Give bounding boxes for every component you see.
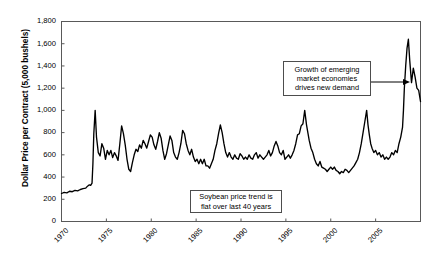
- annotation-emerging-demand: Growth of emerging market economies driv…: [283, 61, 371, 96]
- annotation-demand-line-1: Growth of emerging: [287, 65, 367, 74]
- annotation-flat-line-2: flat over last 40 years: [194, 202, 278, 211]
- annotation-demand-line-3: drives new demand: [287, 83, 367, 92]
- plot-area: [0, 0, 440, 277]
- soybean-price-chart: Dollar Price per Contract (5,000 bushels…: [0, 0, 440, 277]
- annotation-flat-line-1: Soybean price trend is: [194, 192, 278, 201]
- annotation-flat-trend: Soybean price trend is flat over last 40…: [190, 190, 282, 213]
- annotation-demand-line-2: market economies: [287, 74, 367, 83]
- annotation-arrow-icon: [371, 79, 410, 85]
